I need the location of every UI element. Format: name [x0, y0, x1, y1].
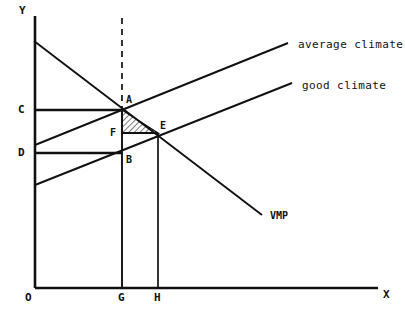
point-label-B: B [126, 155, 132, 165]
curve-label-vmp: VMP [270, 211, 288, 221]
y-axis-label: Y [19, 5, 26, 16]
diagram-canvas: Y X O C D G H A B E F average climate go… [0, 0, 405, 320]
x-axis-label: X [383, 289, 390, 300]
curve-good-climate [35, 83, 292, 185]
point-label-E: E [160, 121, 166, 131]
y-tick-label-C: C [18, 104, 25, 115]
point-label-A: A [126, 95, 132, 105]
y-tick-label-D: D [18, 147, 25, 158]
curve-label-average-climate: average climate [298, 39, 403, 50]
origin-label: O [25, 292, 32, 303]
x-tick-label-H: H [154, 292, 161, 303]
curve-label-good-climate: good climate [302, 80, 386, 91]
x-tick-label-G: G [118, 292, 125, 303]
point-label-F: F [110, 128, 116, 138]
